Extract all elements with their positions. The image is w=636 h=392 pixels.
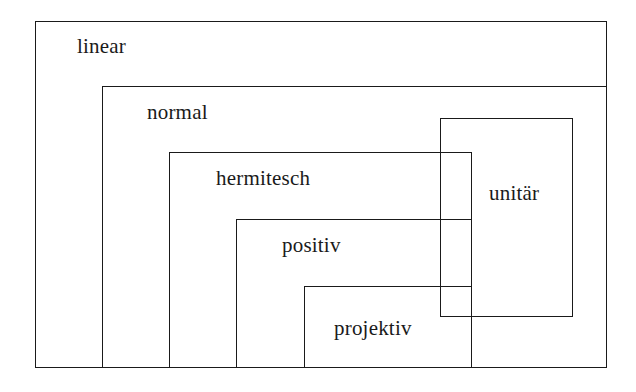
diagram-canvas: linear normal hermitesch positiv projekt…	[0, 0, 636, 392]
region-label-positiv: positiv	[282, 235, 341, 256]
region-label-unitaer: unitär	[489, 183, 539, 204]
region-unitaer[interactable]	[440, 118, 573, 317]
region-label-projektiv: projektiv	[334, 318, 412, 339]
region-label-normal: normal	[147, 102, 208, 123]
region-label-hermitesch: hermitesch	[216, 168, 310, 189]
region-label-linear: linear	[77, 36, 126, 57]
